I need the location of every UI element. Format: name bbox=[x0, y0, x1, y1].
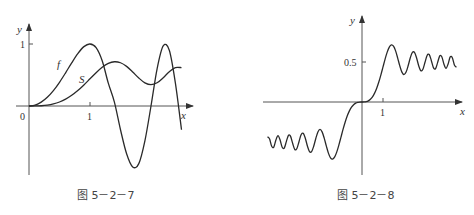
x-tick-label: 1 bbox=[87, 111, 92, 122]
curve-label-s: S bbox=[79, 73, 85, 85]
y-axis-label: y bbox=[349, 14, 355, 26]
figure-caption: 图 5－2－8 bbox=[337, 189, 395, 202]
y-tick-label: 1 bbox=[20, 39, 25, 50]
curve-label-f: f bbox=[57, 58, 62, 70]
figure-5-2-8: y 0.5 1 x 图 5－2－8 bbox=[263, 14, 465, 202]
y-axis-label: y bbox=[16, 23, 22, 35]
x-axis-label: x bbox=[459, 105, 465, 117]
figure-caption: 图 5－2－7 bbox=[77, 189, 135, 202]
figure-5-2-7: y 1 0 1 x f S 图 5－2－7 bbox=[16, 23, 193, 202]
x-tick-label: 1 bbox=[380, 107, 385, 118]
y-tick-label: 0.5 bbox=[344, 57, 357, 68]
figure-canvas: y 1 0 1 x f S 图 5－2－7 y 0.5 1 x 图 5－2－8 bbox=[0, 0, 474, 215]
origin-label: 0 bbox=[20, 111, 25, 122]
curve-s bbox=[29, 62, 182, 106]
x-axis-label: x bbox=[180, 109, 186, 121]
